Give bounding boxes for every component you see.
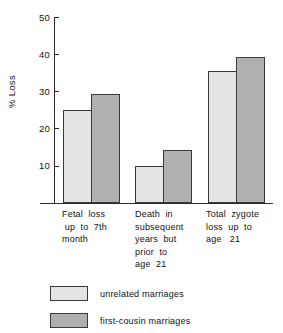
category-line: age 21	[206, 234, 240, 244]
category-line: Total zygote	[206, 209, 259, 219]
legend-label-first-cousin: first-cousin marriages	[100, 316, 190, 326]
plot-area: % Loss 50 40 30 20 10	[0, 0, 283, 205]
bar-death-subsequent-first-cousin	[163, 150, 192, 203]
bar-chart-figure: % Loss 50 40 30 20 10 Fetal loss up to 7…	[0, 0, 283, 333]
bar-total-zygote-first-cousin	[236, 57, 265, 203]
legend-swatch-first-cousin	[50, 313, 88, 328]
category-line: Death in	[135, 209, 173, 219]
category-line: up to 7th	[62, 222, 107, 232]
category-line: age 21	[135, 259, 166, 269]
bars-layer	[0, 0, 283, 203]
category-line: years but	[135, 234, 177, 244]
category-label-fetal-loss: Fetal loss up to 7thmonth	[62, 208, 107, 246]
category-line: Fetal loss	[62, 209, 105, 219]
x-axis-category-labels: Fetal loss up to 7thmonth Death insubseq…	[0, 206, 283, 286]
category-line: subsequent	[135, 222, 184, 232]
legend-item-first-cousin: first-cousin marriages	[50, 310, 280, 331]
bar-death-subsequent-unrelated	[135, 166, 164, 203]
category-line: loss up to	[206, 222, 252, 232]
bar-fetal-loss-unrelated	[63, 110, 92, 203]
chart-legend: unrelated marriages first-cousin marriag…	[50, 283, 280, 333]
x-axis-line	[40, 203, 273, 204]
bar-fetal-loss-first-cousin	[91, 94, 120, 203]
bar-total-zygote-unrelated	[208, 71, 237, 203]
legend-swatch-unrelated	[50, 286, 88, 301]
category-label-death-subsequent: Death insubsequentyears butprior toage 2…	[135, 208, 184, 271]
legend-item-unrelated: unrelated marriages	[50, 283, 280, 304]
category-line: prior to	[135, 247, 167, 257]
legend-label-unrelated: unrelated marriages	[100, 289, 184, 299]
category-line: month	[62, 234, 88, 244]
category-label-total-zygote: Total zygoteloss up toage 21	[206, 208, 259, 246]
